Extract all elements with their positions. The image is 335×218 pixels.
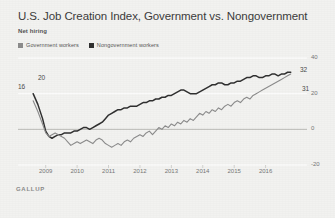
y-axis-tick-label: 0	[311, 125, 314, 131]
endpoint-label-gov-end: 31	[302, 85, 309, 92]
endpoint-label-nongov-end: 32	[300, 66, 307, 73]
legend-label-nongovernment: Nongovernment workers	[97, 42, 159, 48]
endpoint-label-nongov-start: 20	[38, 74, 45, 81]
source-label: GALLUP	[16, 186, 45, 192]
legend-label-government: Government workers	[26, 42, 79, 48]
y-axis-tick-label: -20	[311, 161, 320, 167]
x-axis-labels: 20092010201120122013201420152016	[0, 168, 335, 180]
legend-swatch-icon	[89, 43, 94, 48]
x-axis-tick-label: 2011	[102, 168, 115, 174]
series-line-nongovernment	[33, 72, 291, 138]
chart-svg	[0, 52, 335, 177]
legend-item-nongovernment[interactable]: Nongovernment workers	[89, 42, 159, 48]
page-title: U.S. Job Creation Index, Government vs. …	[18, 10, 307, 22]
endpoint-label-gov-start: 16	[18, 83, 25, 90]
chart-legend: Government workers Nongovernment workers	[18, 42, 159, 48]
x-axis-tick-label: 2010	[70, 168, 83, 174]
gridlines	[18, 58, 307, 168]
x-axis-tick-label: 2009	[39, 168, 52, 174]
x-axis-tick-label: 2012	[133, 168, 146, 174]
x-axis-tick-label: 2014	[196, 168, 209, 174]
x-axis-tick-label: 2016	[259, 168, 272, 174]
chart-subtitle: Net hiring	[18, 28, 47, 34]
x-axis-tick-label: 2015	[227, 168, 240, 174]
y-axis-tick-label: 20	[311, 90, 318, 96]
plot-area	[0, 52, 335, 177]
x-axis-tick-label: 2013	[165, 168, 178, 174]
legend-swatch-icon	[18, 43, 23, 48]
legend-item-government[interactable]: Government workers	[18, 42, 79, 48]
series-lines	[33, 72, 291, 147]
series-line-government	[33, 74, 291, 147]
chart-card: U.S. Job Creation Index, Government vs. …	[0, 0, 335, 218]
y-axis-tick-label: 40	[311, 54, 318, 60]
